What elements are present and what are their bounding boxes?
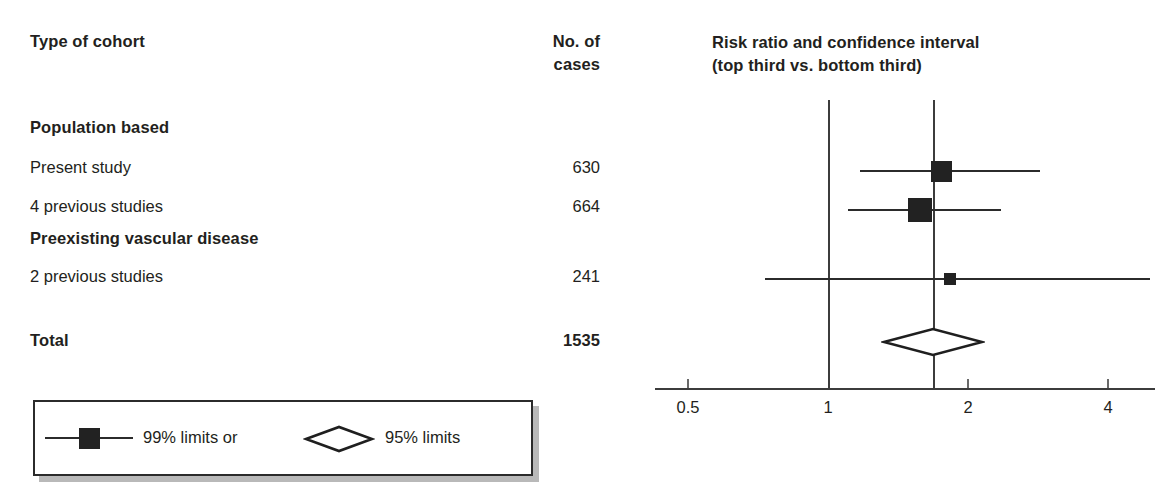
table-row-cases-total: 1535 [440, 330, 600, 350]
table-row-cases-present-study: 630 [440, 157, 600, 177]
forest-plot-figure: Type of cohort No. of cases Population b… [0, 0, 1175, 500]
table-row-label-present-study: Present study [30, 157, 131, 177]
x-axis-label-0.5: 0.5 [658, 398, 718, 417]
x-axis-tick-0.5 [687, 379, 689, 388]
x-axis-label-1: 1 [798, 398, 858, 417]
column-header-no-of-cases-line2: cases [440, 54, 600, 74]
column-header-type-of-cohort: Type of cohort [30, 31, 145, 51]
x-axis-label-4: 4 [1078, 398, 1138, 417]
group-heading-population-based: Population based [30, 117, 169, 137]
effect-marker-2-previous-studies [944, 273, 956, 285]
column-header-no-of-cases-line1: No. of [440, 31, 600, 51]
x-axis-tick-2 [967, 379, 969, 388]
x-axis-line [655, 388, 1155, 390]
effect-marker-present-study [931, 161, 952, 182]
table-row-label-4-previous-studies: 4 previous studies [30, 196, 163, 216]
table-row-cases-4-previous-studies: 664 [440, 196, 600, 216]
table-row-cases-2-previous-studies: 241 [440, 266, 600, 286]
plot-title: Risk ratio and confidence interval (top … [712, 31, 979, 77]
group-heading-preexisting-vascular-disease: Preexisting vascular disease [30, 228, 258, 248]
null-reference-line [828, 100, 830, 388]
summary-diamond-total [881, 326, 985, 358]
legend-label-99-percent: 99% limits or [143, 428, 237, 447]
effect-marker-4-previous-studies [908, 198, 932, 222]
ci-whisker-2-previous-studies [765, 278, 1150, 280]
x-axis-label-2: 2 [938, 398, 998, 417]
table-row-label-2-previous-studies: 2 previous studies [30, 266, 163, 286]
table-row-label-total: Total [30, 330, 69, 350]
legend-square-icon [79, 428, 100, 449]
x-axis-tick-4 [1107, 379, 1109, 388]
legend-label-95-percent: 95% limits [385, 428, 460, 447]
legend-diamond-icon [303, 424, 375, 454]
